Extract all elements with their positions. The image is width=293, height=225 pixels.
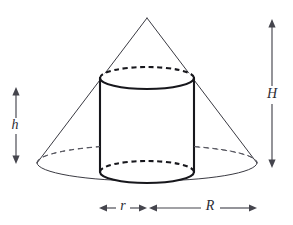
cylinder-body-fill [100, 67, 194, 183]
label-r: r [120, 198, 126, 213]
cylinder-shape [100, 67, 194, 183]
geometry-diagram: h H r R [0, 0, 293, 225]
label-h: h [12, 117, 19, 132]
label-H: H [266, 86, 278, 101]
label-R: R [205, 198, 215, 213]
figure-root: h H r R [0, 0, 293, 225]
